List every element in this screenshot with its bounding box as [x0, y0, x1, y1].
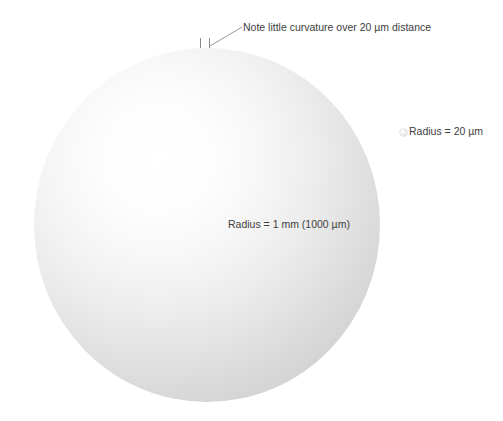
large-sphere-radius-label: Radius = 1 mm (1000 µm) — [228, 218, 350, 231]
sphere-scale-diagram: Note little curvature over 20 µm distanc… — [0, 0, 503, 421]
curvature-note-label: Note little curvature over 20 µm distanc… — [243, 21, 431, 34]
small-sphere — [399, 128, 408, 137]
callout-leader-line — [204, 20, 248, 50]
callout-tick-left — [200, 38, 201, 48]
small-sphere-radius-label: Radius = 20 µm — [409, 125, 483, 138]
